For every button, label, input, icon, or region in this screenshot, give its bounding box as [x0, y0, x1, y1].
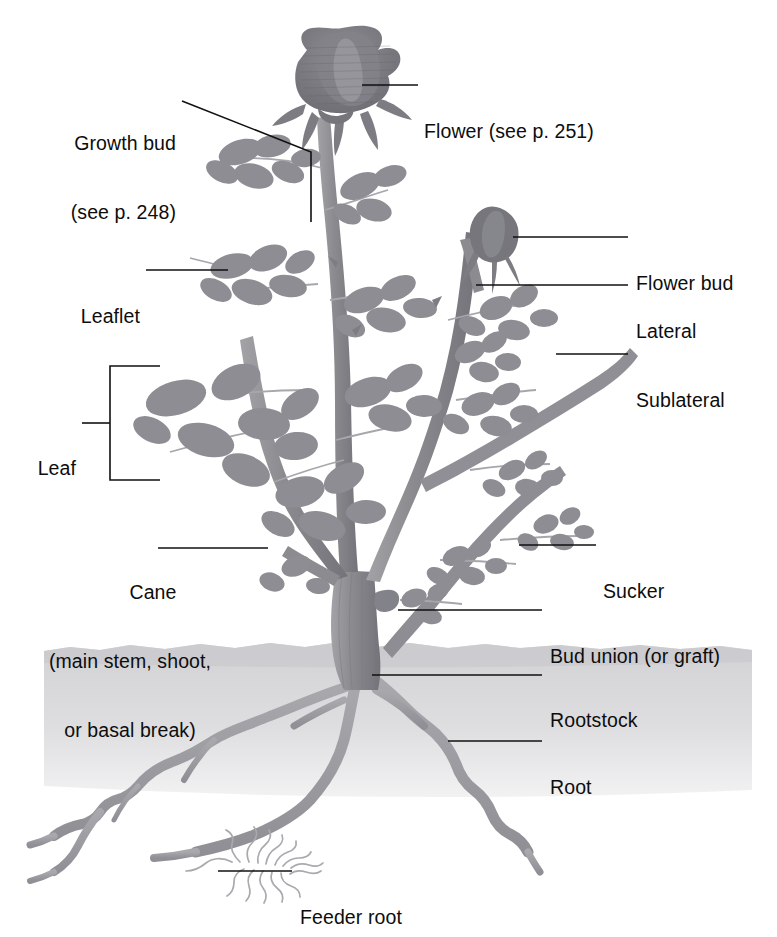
leaf-cluster-mid-centre: [341, 358, 443, 436]
label-cane: Cane (main stem, shoot, or basal break): [0, 535, 260, 788]
label-lateral-line1: Lateral: [636, 320, 696, 343]
label-rootstock-line1: Rootstock: [550, 709, 638, 732]
label-cane-line1: Cane: [0, 581, 260, 604]
flower: [272, 26, 412, 156]
leaflet-cluster: [196, 239, 319, 310]
leaf-cluster-mid-right-a: [331, 270, 438, 342]
label-flower: Flower (see p. 251): [424, 74, 594, 189]
label-sublateral: Sublateral: [636, 343, 725, 458]
rootstock-trunk: [331, 570, 380, 690]
label-growth-bud-line2: (see p. 248): [0, 201, 176, 224]
label-flower-line1: Flower (see p. 251): [424, 120, 594, 143]
label-root: Root: [550, 730, 592, 845]
label-leaf-line1: Leaf: [0, 457, 76, 480]
leaf-compound-left: [129, 356, 325, 493]
rose-anatomy-diagram: Growth bud (see p. 248) Flower (see p. 2…: [0, 0, 777, 937]
label-leaf: Leaf: [0, 411, 76, 526]
label-sublateral-line1: Sublateral: [636, 389, 725, 412]
label-growth-bud-line1: Growth bud: [0, 132, 176, 155]
label-cane-line2: (main stem, shoot,: [0, 650, 260, 673]
label-root-line1: Root: [550, 776, 592, 799]
label-leaflet: Leaflet: [0, 259, 140, 374]
label-growth-bud: Growth bud (see p. 248): [0, 86, 176, 270]
label-leaflet-line1: Leaflet: [0, 305, 140, 328]
label-feeder-root: Feeder root: [300, 860, 402, 937]
label-cane-line3: or basal break): [0, 719, 260, 742]
bud-union-knob: [374, 590, 399, 612]
label-feeder-root-line1: Feeder root: [300, 906, 402, 929]
